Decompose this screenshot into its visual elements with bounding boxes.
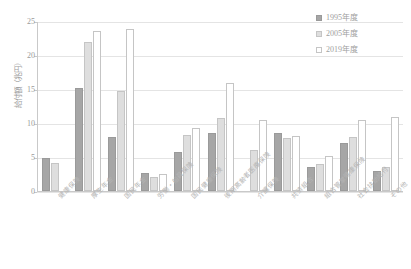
legend-label: 2019年度	[326, 46, 358, 54]
legend-item[interactable]: 1995年度	[316, 13, 408, 23]
legend-swatch-icon	[316, 15, 322, 21]
x-axis-labels: 健康保険厚生年金国民年金労働・船員保険国民健康保険後期高齢者医療保険介護保険共済…	[38, 193, 404, 269]
bar-group	[71, 22, 104, 191]
bar	[51, 163, 59, 191]
legend-item[interactable]: 2005年度	[316, 29, 408, 39]
bar	[226, 83, 234, 191]
bar-group	[104, 22, 137, 191]
legend-item[interactable]: 2019年度	[316, 45, 408, 55]
bar	[93, 31, 101, 191]
legend-swatch-icon	[316, 47, 322, 53]
bar-group	[38, 22, 71, 191]
y-tick-label: 5	[9, 154, 35, 162]
y-tick-label: 0	[9, 188, 35, 196]
legend-swatch-icon	[316, 31, 322, 37]
legend-label: 1995年度	[326, 14, 358, 22]
chart-legend: 1995年度2005年度2019年度	[316, 13, 408, 61]
bar-group	[270, 22, 303, 191]
legend-label: 2005年度	[326, 30, 358, 38]
y-tick-label: 10	[9, 120, 35, 128]
bar-group	[138, 22, 171, 191]
bar	[117, 91, 125, 191]
bar	[217, 118, 225, 191]
bar	[126, 29, 134, 191]
bar	[316, 164, 324, 191]
bar	[42, 158, 50, 191]
bar	[84, 42, 92, 191]
y-tick-label: 20	[9, 52, 35, 60]
y-tick-label: 25	[9, 18, 35, 26]
bar	[283, 138, 291, 191]
bar-chart: 給付額（兆円） 2520151050 健康保険厚生年金国民年金労働・船員保険国民…	[0, 0, 411, 269]
y-tick-label: 15	[9, 86, 35, 94]
